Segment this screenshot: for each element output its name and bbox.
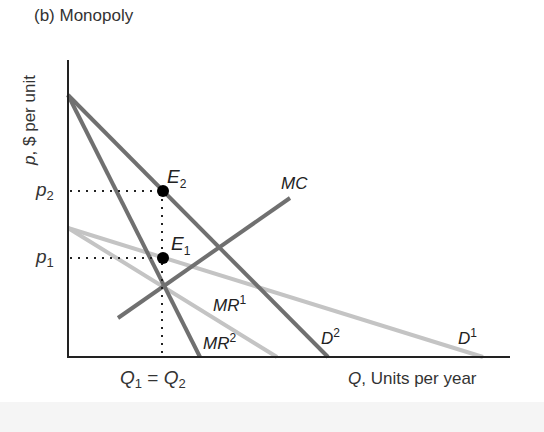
d1-curve [68, 228, 483, 357]
p2-tick-label: p2 [36, 179, 54, 203]
monopoly-diagram [0, 0, 544, 432]
e1-point [157, 252, 169, 264]
d2-label: D2 [321, 326, 340, 349]
mr1-label: MR1 [213, 293, 246, 316]
e1-label: E1 [171, 233, 190, 258]
q-tick-label: Q1 = Q2 [120, 367, 186, 391]
x-axis-label: Q, Units per year [348, 369, 477, 389]
mr2-label: MR2 [203, 331, 236, 354]
d1-label: D1 [458, 326, 477, 349]
mc-label: MC [281, 174, 307, 194]
mr2-curve [68, 95, 200, 357]
d2-curve [68, 95, 328, 357]
e2-label: E2 [167, 166, 186, 191]
p1-tick-label: p1 [36, 246, 54, 270]
